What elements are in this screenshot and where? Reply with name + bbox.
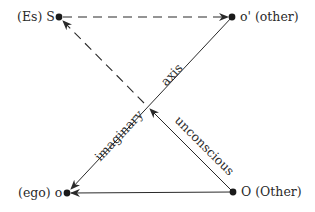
node-dot-s — [56, 14, 63, 21]
node-label-ego: (ego) o — [18, 187, 62, 200]
node-label-other-big: O (Other) — [241, 186, 302, 199]
node-dot-ego — [64, 190, 71, 197]
edge-unconscious-dashed — [63, 21, 144, 103]
edge-imaginary-axis — [71, 17, 232, 189]
node-label-s: (Es) S — [17, 11, 55, 24]
node-dot-other-big — [230, 189, 237, 196]
schema-l-diagram: (Es) S o' (other) (ego) o O (Other) imag… — [0, 0, 315, 212]
diagram-canvas — [0, 0, 315, 212]
edge-other-to-ego — [71, 192, 233, 193]
node-label-other-small: o' (other) — [240, 11, 299, 24]
node-dot-other-small — [229, 14, 236, 21]
